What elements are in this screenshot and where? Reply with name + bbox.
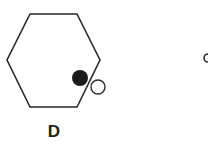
partial-shape-edge — [204, 54, 208, 62]
filled-dot — [72, 70, 88, 86]
option-label: D — [45, 122, 63, 142]
open-dot — [91, 80, 105, 94]
hexagon-shape — [7, 14, 100, 107]
diagram-canvas — [0, 0, 209, 150]
